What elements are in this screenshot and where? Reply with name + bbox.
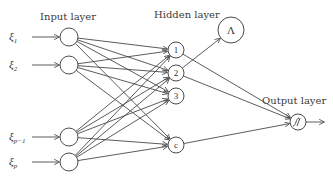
- input-node-p-minus-1: [60, 128, 78, 146]
- input-node-1: [60, 28, 78, 46]
- edge-x1-h1: [78, 38, 167, 49]
- edge-x2-h1: [78, 51, 167, 64]
- hidden-node-3-label: 3: [174, 91, 179, 101]
- output-node: [290, 114, 306, 130]
- edge-h1-out: [183, 54, 290, 117]
- lambda-node-label: Λ: [227, 24, 235, 36]
- input-node-2: [60, 56, 78, 74]
- neural-network-diagram: Input layer Hidden layer Output layer ξ1…: [0, 0, 333, 182]
- input-var-label-2: ξ2: [9, 58, 18, 73]
- output-layer-label: Output layer: [262, 95, 326, 106]
- input-layer-label: Input layer: [40, 11, 96, 22]
- input-var-label-p-minus-1: ξp−1: [9, 130, 25, 145]
- input-var-label-1: ξ1: [9, 30, 17, 45]
- edge-hc-out: [184, 124, 289, 144]
- edge-xp1-h2: [77, 78, 169, 133]
- hidden-node-c-label: c: [174, 140, 178, 150]
- edge-x1-h2: [78, 40, 168, 70]
- input-var-label-p: ξp: [9, 155, 18, 170]
- input-node-p: [60, 153, 78, 171]
- hidden-node-1-label: 1: [174, 45, 179, 55]
- edge-h2-lambda: [182, 39, 220, 68]
- edge-xp1-h1: [76, 56, 169, 132]
- hidden-layer-label: Hidden layer: [154, 9, 220, 20]
- hidden-node-2-label: 2: [174, 68, 179, 78]
